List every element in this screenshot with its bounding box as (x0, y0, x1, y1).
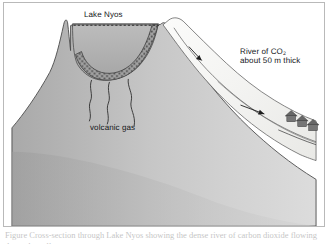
label-volcanic-gas: volcanic gas (90, 123, 135, 132)
label-river-line1: River of CO2 (240, 47, 286, 56)
figure-frame: Lake Nyos River of CO2 about 50 m thick … (3, 2, 325, 227)
cross-section-drawing (4, 3, 324, 226)
figure-caption: Figure Cross-section through Lake Nyos s… (5, 230, 323, 244)
label-lake-nyos: Lake Nyos (84, 10, 123, 19)
figure-lake-nyos: Lake Nyos River of CO2 about 50 m thick … (0, 0, 330, 245)
diagram-scene: Lake Nyos River of CO2 about 50 m thick … (4, 3, 324, 226)
label-river-of-co2: River of CO2 about 50 m thick (240, 47, 300, 66)
label-river-line2: about 50 m thick (240, 56, 300, 65)
